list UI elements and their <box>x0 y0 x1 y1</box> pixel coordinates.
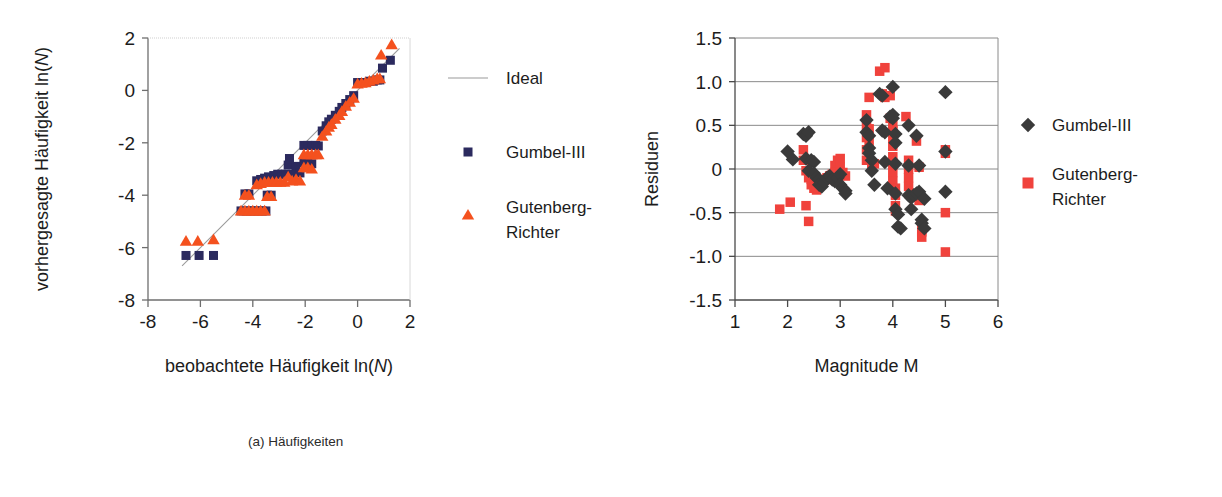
series-gutenberg-richter <box>180 38 398 245</box>
y-tick-label: -1.5 <box>689 290 722 311</box>
y-tick-label: 1.0 <box>696 72 722 93</box>
data-point <box>909 129 923 143</box>
data-point <box>904 173 914 183</box>
data-point <box>941 247 951 257</box>
x-tick-label: 3 <box>835 311 846 332</box>
legend-label-text: Gumbel-III <box>1052 116 1131 135</box>
x-ticks-b: 123456 <box>730 300 1004 332</box>
legend-item-gumbel-iii[interactable]: Gumbel-III <box>464 143 586 162</box>
legend-diamond-swatch <box>1021 118 1035 132</box>
x-tick-label: -4 <box>244 311 261 332</box>
data-point <box>938 144 952 158</box>
data-point <box>195 251 204 260</box>
data-point <box>386 56 395 65</box>
x-tick-label: 2 <box>782 311 793 332</box>
data-point <box>801 201 811 211</box>
legend-item-gutenberg-richter[interactable]: Gutenberg-Richter <box>1023 165 1139 209</box>
x-axis-title: beobachtete Häufigkeit ln(N) <box>165 356 393 376</box>
legend-triangle-swatch <box>462 209 474 220</box>
data-point <box>181 251 190 260</box>
legend-b: Gumbel-IIIGutenberg-Richter <box>1021 116 1138 209</box>
data-point <box>835 154 845 164</box>
legend-item-gutenberg-richter[interactable]: Gutenberg-Richter <box>462 198 592 242</box>
x-tick-label: -2 <box>297 311 314 332</box>
x-tick-label: 1 <box>730 311 741 332</box>
legend-label-text: Richter <box>1052 190 1106 209</box>
y-tick-label: 2 <box>124 28 135 49</box>
y-ticks-b: -1.5-1.0-0.500.51.01.5 <box>689 28 735 311</box>
legend-item-ideal[interactable]: Ideal <box>448 69 543 88</box>
data-point <box>192 235 204 246</box>
data-point <box>867 178 881 192</box>
data-point <box>209 251 218 260</box>
x-tick-label: -6 <box>192 311 209 332</box>
y-axis-title: Residuen <box>642 131 662 207</box>
y-tick-label: -1.0 <box>689 246 722 267</box>
panel-haeufigkeiten: -8-6-4-202-8-6-4-202beobachtete Häufigke… <box>0 0 620 497</box>
legend-a: IdealGumbel-IIIGutenberg-Richter <box>448 69 592 242</box>
legend-square-swatch <box>464 148 473 157</box>
legend-square-swatch <box>1023 178 1034 189</box>
legend-label-text: Gutenberg- <box>1052 165 1138 184</box>
panel-residuenplot: -1.5-1.0-0.500.51.01.5123456Magnitude MR… <box>620 0 1222 497</box>
y-ticks-a: -8-6-4-202 <box>118 28 148 311</box>
chart-residuenplot: -1.5-1.0-0.500.51.01.5123456Magnitude MR… <box>620 0 1222 430</box>
x-tick-label: 5 <box>940 311 951 332</box>
data-point <box>938 85 952 99</box>
legend-label-text: Gutenberg- <box>506 198 592 217</box>
x-tick-label: 0 <box>352 311 363 332</box>
data-point <box>912 158 926 172</box>
data-point <box>880 63 890 72</box>
legend-label-text: Richter <box>506 223 560 242</box>
x-tick-label: 2 <box>405 311 416 332</box>
data-point <box>941 208 951 218</box>
y-tick-label: -6 <box>118 238 135 259</box>
data-point <box>864 93 874 103</box>
x-tick-label: 6 <box>993 311 1004 332</box>
y-tick-label: -0.5 <box>689 203 722 224</box>
data-point <box>938 185 952 199</box>
x-axis-title-italic-n: N <box>374 356 388 376</box>
chart-haeufigkeiten: -8-6-4-202-8-6-4-202beobachtete Häufigke… <box>0 0 620 430</box>
x-tick-label: -8 <box>140 311 157 332</box>
y-tick-label: 0 <box>124 80 135 101</box>
data-point <box>180 235 192 246</box>
x-axis-title: Magnitude M <box>814 356 918 376</box>
legend-label-text: Ideal <box>506 69 543 88</box>
legend-item-gumbel-iii[interactable]: Gumbel-III <box>1021 116 1132 135</box>
y-tick-label: -8 <box>118 290 135 311</box>
data-point <box>378 64 387 73</box>
y-axis-title: vorhergesagte Häufigkeit ln(N) <box>32 47 52 291</box>
legend-label-text: Gumbel-III <box>506 143 585 162</box>
x-ticks-a: -8-6-4-202 <box>140 300 416 332</box>
y-tick-label: -2 <box>118 133 135 154</box>
y-axis-title-italic-n: N <box>32 52 52 66</box>
y-tick-label: 0.5 <box>696 115 722 136</box>
y-tick-label: 0 <box>711 159 722 180</box>
y-tick-label: 1.5 <box>696 28 722 49</box>
y-tick-label: -4 <box>118 185 135 206</box>
data-point <box>804 217 814 227</box>
data-point <box>385 38 397 49</box>
figure-root: -8-6-4-202-8-6-4-202beobachtete Häufigke… <box>0 0 1222 497</box>
x-tick-label: 4 <box>888 311 899 332</box>
caption-panel-a: (a) Häufigkeiten <box>248 434 343 449</box>
data-point <box>775 204 785 214</box>
data-point <box>285 154 294 163</box>
data-point <box>785 197 795 207</box>
data-point <box>375 49 387 60</box>
